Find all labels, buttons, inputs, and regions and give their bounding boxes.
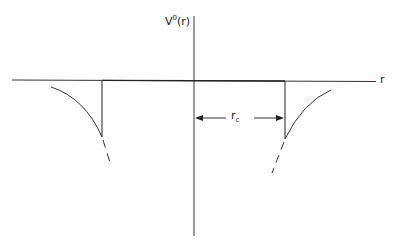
left-dashed-curve: [103, 140, 111, 166]
right-potential-curve: [285, 90, 331, 139]
potential-diagram: [0, 0, 395, 244]
rc-label: rc: [231, 109, 239, 124]
x-axis-label: r: [380, 73, 385, 86]
y-label-base: V: [165, 15, 173, 28]
well-top: [102, 80, 285, 81]
y-label-arg: (r): [177, 15, 190, 28]
arrowhead-right-icon: [276, 115, 284, 121]
rc-label-subscript: c: [236, 116, 240, 124]
x-label-text: r: [380, 73, 385, 86]
left-potential-curve: [51, 87, 102, 137]
arrowhead-left-icon: [195, 115, 203, 121]
right-dashed-curve: [272, 142, 284, 173]
y-axis-label: V0(r): [165, 14, 190, 28]
